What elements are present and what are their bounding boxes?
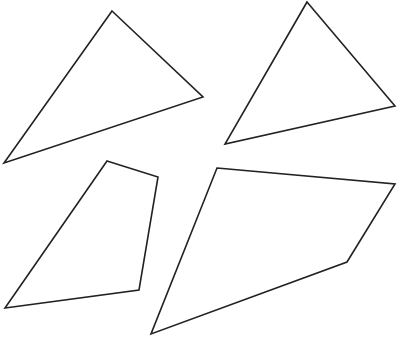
shapes-svg — [0, 0, 398, 337]
triangle-top-right — [225, 2, 395, 144]
diagram-canvas — [0, 0, 398, 337]
quadrilateral-bottom-left — [5, 161, 158, 308]
quadrilateral-bottom-right — [151, 168, 395, 334]
triangle-top-left — [4, 11, 203, 163]
